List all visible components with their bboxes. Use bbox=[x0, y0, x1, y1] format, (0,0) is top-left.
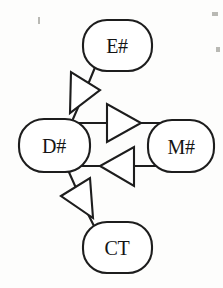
scan-speck bbox=[216, 47, 220, 52]
scan-speck bbox=[38, 17, 40, 24]
node-ct[interactable]: CT bbox=[83, 222, 152, 273]
node-ct-label: CT bbox=[105, 237, 130, 259]
node-e[interactable]: E# bbox=[83, 20, 152, 71]
node-m[interactable]: M# bbox=[148, 120, 214, 172]
node-d[interactable]: D# bbox=[19, 119, 90, 172]
edge-d-to-m-arrowhead-icon bbox=[107, 104, 141, 142]
edge-e-to-d-arrowhead-icon bbox=[70, 72, 100, 113]
diagram-canvas: E# D# M# CT bbox=[0, 0, 223, 288]
edge-ct-to-d[interactable] bbox=[61, 170, 95, 228]
node-e-label: E# bbox=[106, 35, 128, 57]
edge-m-to-d-arrowhead-icon bbox=[100, 147, 134, 186]
edge-e-to-d[interactable] bbox=[70, 65, 100, 119]
node-d-label: D# bbox=[42, 135, 66, 157]
edge-ct-to-d-arrowhead-icon bbox=[61, 178, 93, 218]
node-m-label: M# bbox=[167, 136, 194, 158]
scan-speck bbox=[212, 12, 218, 16]
diagram-svg: E# D# M# CT bbox=[0, 0, 223, 288]
